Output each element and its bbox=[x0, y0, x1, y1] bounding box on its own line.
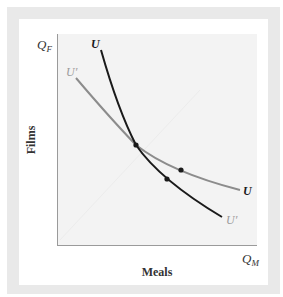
x-axis-label: Meals bbox=[142, 265, 173, 279]
indifference-curve-diagram: QF QM Films Meals U U′ U U′ bbox=[0, 0, 283, 297]
black-curve-end-label: U′ bbox=[226, 213, 238, 227]
y-axis-label: Films bbox=[24, 125, 38, 154]
point-on-black-curve bbox=[164, 176, 169, 181]
point-on-gray-curve bbox=[178, 167, 183, 172]
y-axis-symbol: QF bbox=[37, 37, 52, 54]
gray-curve-top-label: U′ bbox=[66, 65, 78, 79]
intersection-point bbox=[133, 142, 138, 147]
black-curve-top-label: U bbox=[91, 37, 101, 51]
x-axis-symbol: QM bbox=[242, 251, 259, 268]
gray-curve-end-label: U bbox=[243, 184, 253, 198]
